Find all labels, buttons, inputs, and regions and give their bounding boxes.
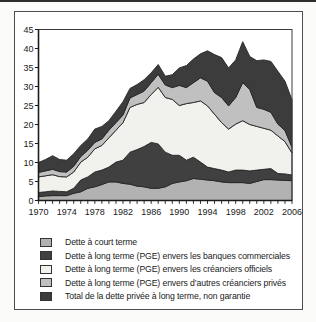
legend-item: Dette à court terme [40, 237, 298, 247]
page-top-rule [0, 0, 316, 2]
legend-label: Dette à court terme [65, 237, 137, 247]
legend-item: Dette à long terme (PGE) envers les banq… [40, 251, 298, 261]
y-tick-label: 30 [23, 82, 33, 92]
legend-swatch-creanciers-officiels [40, 265, 52, 274]
y-tick-label: 25 [23, 101, 33, 111]
x-tick-label: 1986 [141, 207, 161, 217]
legend-item: Dette à long terme (PGE) envers d’autres… [40, 278, 298, 288]
legend-swatch-autres-creanciers-prives [40, 278, 52, 287]
y-tick-label: 45 [23, 25, 33, 35]
legend-label: Dette à long terme (PGE) envers les créa… [65, 264, 272, 274]
y-tick-label: 0 [28, 196, 33, 206]
x-tick-label: 1970 [28, 207, 48, 217]
y-tick-label: 15 [23, 139, 33, 149]
y-tick-label: 20 [23, 120, 33, 130]
y-tick-label: 40 [23, 44, 33, 54]
legend-label: Total de la dette privée à long terme, n… [65, 291, 250, 301]
x-tick-label: 2002 [254, 207, 274, 217]
x-tick-label: 1978 [85, 207, 105, 217]
y-tick-label: 5 [28, 177, 33, 187]
legend-label: Dette à long terme (PGE) envers d’autres… [65, 278, 286, 288]
x-tick-label: 1990 [169, 207, 189, 217]
legend-item: Dette à long terme (PGE) envers les créa… [40, 264, 298, 274]
x-tick-label: 1982 [113, 207, 133, 217]
legend-swatch-dette-privee-non-garantie [40, 292, 52, 301]
legend-item: Total de la dette privée à long terme, n… [40, 291, 298, 301]
figure-frame: 0510152025303540451970197419781982198619… [14, 11, 303, 310]
figure-page: { "chart_data": { "type": "area", "stack… [0, 0, 316, 322]
y-tick-label: 35 [23, 63, 33, 73]
legend-swatch-court-terme [40, 238, 52, 247]
legend-label: Dette à long terme (PGE) envers les banq… [65, 251, 290, 261]
chart-legend: Dette à court terme Dette à long terme (… [40, 237, 298, 305]
x-tick-label: 1998 [226, 207, 246, 217]
legend-swatch-banques-commerciales [40, 251, 52, 260]
y-tick-label: 10 [23, 158, 33, 168]
x-tick-label: 2006 [282, 207, 302, 217]
x-tick-label: 1994 [197, 207, 217, 217]
stacked-area-chart: 0510152025303540451970197419781982198619… [15, 12, 302, 226]
x-tick-label: 1974 [57, 207, 77, 217]
